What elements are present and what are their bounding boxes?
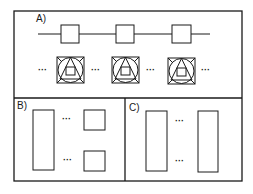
- panel-c-ellipsis-bottom: ···: [175, 156, 184, 166]
- panel-a-label: A): [36, 13, 46, 24]
- panel-c-tall-rect-right: [198, 111, 218, 172]
- ellipsis-1: ···: [38, 65, 47, 75]
- panel-a: A) ··· ··· ··· ···: [36, 13, 210, 84]
- panel-b-tall-rect: [33, 110, 54, 170]
- composite-symbol-icon-1: [57, 57, 84, 83]
- composite-symbol-icon-3: [168, 58, 195, 84]
- chain-node-3: [172, 25, 191, 43]
- ellipsis-4: ···: [201, 65, 210, 75]
- ellipsis-2: ···: [91, 65, 100, 75]
- diagram: A) ··· ··· ··· ···: [0, 0, 253, 194]
- panel-b: B) ··· ···: [17, 100, 105, 171]
- panel-c-label: C): [129, 102, 140, 113]
- panel-b-square-bottom: [84, 151, 105, 171]
- panel-b-ellipsis-bottom: ···: [63, 155, 72, 165]
- ellipsis-3: ···: [146, 65, 155, 75]
- panel-c-tall-rect-left: [146, 111, 167, 171]
- panel-c-ellipsis-top: ···: [175, 116, 184, 126]
- panel-b-label: B): [17, 100, 27, 111]
- panel-c: C) ··· ···: [129, 102, 218, 172]
- panel-b-square-top: [84, 110, 105, 130]
- chain-node-1: [61, 25, 79, 43]
- composite-symbol-icon-2: [112, 57, 139, 83]
- chain-node-2: [116, 25, 134, 43]
- panel-b-ellipsis-top: ···: [62, 114, 71, 124]
